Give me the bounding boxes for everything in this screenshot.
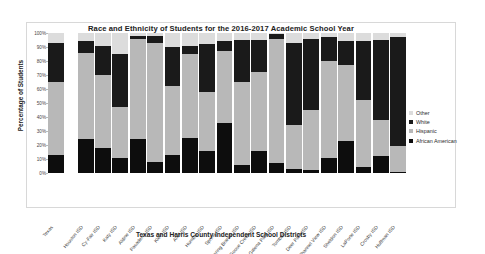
x-axis-title: Texas and Harris County Independent Scho… bbox=[26, 231, 416, 238]
bar-stack[interactable] bbox=[48, 33, 64, 173]
bar-segment-hispanic bbox=[269, 39, 285, 164]
bar-segment-other bbox=[112, 33, 128, 54]
bar-segment-african-american bbox=[182, 138, 198, 173]
y-axis-title: Percentage of Students bbox=[17, 36, 24, 156]
legend-item[interactable]: Other bbox=[409, 110, 457, 116]
bar-segment-african-american bbox=[112, 158, 128, 173]
bar-segment-hispanic bbox=[165, 86, 181, 155]
bar-stack[interactable] bbox=[112, 33, 128, 173]
bar-segment-hispanic bbox=[251, 72, 267, 150]
bar-stack[interactable] bbox=[286, 33, 302, 173]
bar-segment-african-american bbox=[251, 151, 267, 173]
bar-segment-white bbox=[251, 40, 267, 72]
bar-stack[interactable] bbox=[269, 33, 285, 173]
bar-segment-hispanic bbox=[147, 43, 163, 162]
bar-segment-white bbox=[78, 41, 94, 52]
bar-segment-african-american bbox=[130, 139, 146, 173]
y-tick-label: 100% bbox=[34, 31, 46, 36]
bar-segment-hispanic bbox=[356, 100, 372, 167]
bar-segment-other bbox=[251, 33, 267, 40]
y-tick-mark bbox=[46, 173, 48, 174]
bar-segment-african-american bbox=[356, 167, 372, 173]
bar-segment-african-american bbox=[234, 165, 250, 173]
bar-segment-hispanic bbox=[112, 107, 128, 157]
bar-segment-other bbox=[48, 33, 64, 43]
legend-item[interactable]: Hispanic bbox=[409, 128, 457, 134]
y-axis-ticks: 100%90%80%70%60%50%40%30%20%10%0% bbox=[26, 33, 48, 173]
bar-stack[interactable] bbox=[234, 33, 250, 173]
bar-segment-other bbox=[199, 33, 215, 44]
bar-stack[interactable] bbox=[217, 33, 233, 173]
legend-item[interactable]: White bbox=[409, 119, 457, 125]
bar-segment-hispanic bbox=[321, 61, 337, 158]
y-tick-label: 40% bbox=[37, 115, 46, 120]
bar-stack[interactable] bbox=[303, 33, 319, 173]
y-tick-label: 30% bbox=[37, 129, 46, 134]
legend-swatch-icon bbox=[409, 129, 413, 133]
bar-segment-african-american bbox=[390, 172, 406, 173]
bar-segment-other bbox=[95, 33, 111, 46]
bar-segment-african-american bbox=[286, 169, 302, 173]
bar-segment-white bbox=[286, 43, 302, 126]
legend-swatch-icon bbox=[409, 120, 413, 124]
legend-label: Hispanic bbox=[416, 128, 437, 134]
bar-segment-hispanic bbox=[217, 51, 233, 122]
bar-segment-other bbox=[338, 33, 354, 41]
bar-stack[interactable] bbox=[182, 33, 198, 173]
bar-segment-white bbox=[303, 39, 319, 110]
y-tick-label: 80% bbox=[37, 59, 46, 64]
y-tick-label: 90% bbox=[37, 45, 46, 50]
bar-stack[interactable] bbox=[356, 33, 372, 173]
bar-stack[interactable] bbox=[147, 33, 163, 173]
bar-segment-white bbox=[338, 41, 354, 65]
bar-segment-other bbox=[165, 33, 181, 47]
bar-segment-other bbox=[217, 33, 233, 41]
bar-segment-white bbox=[48, 43, 64, 82]
bar-segment-other bbox=[373, 33, 389, 40]
bar-segment-african-american bbox=[199, 151, 215, 173]
bar-stack[interactable] bbox=[199, 33, 215, 173]
bar-segment-hispanic bbox=[303, 110, 319, 170]
bar-segment-white bbox=[95, 46, 111, 75]
bar-segment-hispanic bbox=[130, 39, 146, 140]
bar-stack[interactable] bbox=[95, 33, 111, 173]
bar-segment-other bbox=[286, 33, 302, 43]
y-tick-label: 70% bbox=[37, 73, 46, 78]
bar-segment-white bbox=[182, 46, 198, 54]
bar-stack[interactable] bbox=[130, 33, 146, 173]
bar-segment-african-american bbox=[303, 170, 319, 173]
bar-segment-african-american bbox=[147, 162, 163, 173]
y-tick-label: 50% bbox=[37, 101, 46, 106]
bar-segment-hispanic bbox=[373, 120, 389, 156]
legend-label: White bbox=[416, 119, 430, 125]
legend-label: African American bbox=[416, 138, 457, 144]
legend-item[interactable]: African American bbox=[409, 138, 457, 144]
bar-stack[interactable] bbox=[373, 33, 389, 173]
chart-container: Race and Ethnicity of Students for the 2… bbox=[0, 0, 485, 254]
bar-segment-african-american bbox=[78, 139, 94, 173]
bar-stack[interactable] bbox=[78, 33, 94, 173]
bar-segment-african-american bbox=[269, 163, 285, 173]
y-tick-label: 20% bbox=[37, 143, 46, 148]
bar-stack[interactable] bbox=[321, 33, 337, 173]
bar-segment-other bbox=[234, 33, 250, 40]
bar-segment-african-american bbox=[338, 141, 354, 173]
bar-stack[interactable] bbox=[390, 33, 406, 173]
bar-segment-hispanic bbox=[199, 92, 215, 151]
legend: OtherWhiteHispanicAfrican American bbox=[409, 110, 457, 147]
bar-segment-hispanic bbox=[78, 53, 94, 140]
bar-segment-hispanic bbox=[182, 54, 198, 138]
bar-segment-white bbox=[147, 36, 163, 43]
plot-area bbox=[48, 33, 406, 173]
bar-segment-other bbox=[78, 33, 94, 41]
bar-segment-hispanic bbox=[234, 82, 250, 165]
bar-segment-white bbox=[234, 40, 250, 82]
bar-stack[interactable] bbox=[338, 33, 354, 173]
y-tick-label: 0% bbox=[39, 171, 46, 176]
bar-segment-white bbox=[373, 40, 389, 120]
y-tick-label: 10% bbox=[37, 157, 46, 162]
bar-segment-white bbox=[321, 37, 337, 61]
bar-stack[interactable] bbox=[165, 33, 181, 173]
y-tick-label: 60% bbox=[37, 87, 46, 92]
bar-stack[interactable] bbox=[251, 33, 267, 173]
